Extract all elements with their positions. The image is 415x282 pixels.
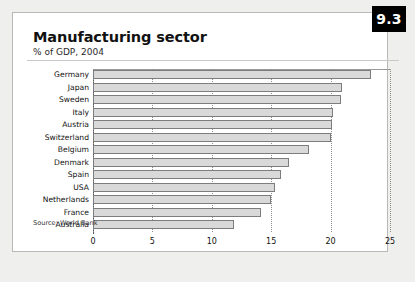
- bar: [93, 170, 281, 179]
- category-axis-labels: GermanyJapanSwedenItalyAustriaSwitzerlan…: [13, 69, 89, 232]
- bar: [93, 195, 271, 204]
- bar-row: [93, 219, 390, 232]
- bar-row: [93, 169, 390, 182]
- bar-row: [93, 194, 390, 207]
- title-divider: [27, 60, 399, 61]
- x-axis-tick-label: 15: [266, 237, 276, 246]
- category-label: Italy: [15, 107, 89, 120]
- bar: [93, 120, 332, 129]
- bar-row: [93, 182, 390, 195]
- bar: [93, 183, 275, 192]
- category-label: France: [15, 207, 89, 220]
- page-title: Manufacturing sector: [33, 29, 207, 45]
- plot-area: 0510152025: [93, 69, 390, 232]
- source-note: Source: World Bank: [33, 219, 98, 227]
- x-axis-tick-label: 5: [150, 237, 155, 246]
- bar: [93, 70, 371, 79]
- x-axis-tick-label: 10: [207, 237, 217, 246]
- category-label: Denmark: [15, 157, 89, 170]
- bar-row: [93, 94, 390, 107]
- bar-row: [93, 157, 390, 170]
- category-label: Spain: [15, 169, 89, 182]
- bar: [93, 95, 341, 104]
- bar: [93, 108, 333, 117]
- bar-row: [93, 107, 390, 120]
- category-label: Austria: [15, 119, 89, 132]
- bar-row: [93, 69, 390, 82]
- category-label: Netherlands: [15, 194, 89, 207]
- x-axis-tick-label: 25: [385, 237, 395, 246]
- status-badge: 9.3: [372, 6, 406, 32]
- category-label: Switzerland: [15, 132, 89, 145]
- gridline: [390, 69, 391, 232]
- chart-figure: Manufacturing sector % of GDP, 2004 Germ…: [0, 0, 415, 282]
- x-axis-tick-label: 0: [90, 237, 95, 246]
- bar-row: [93, 119, 390, 132]
- bar: [93, 133, 331, 142]
- bar-row: [93, 82, 390, 95]
- category-label: Sweden: [15, 94, 89, 107]
- bar-row: [93, 144, 390, 157]
- category-label: Belgium: [15, 144, 89, 157]
- bar: [93, 158, 289, 167]
- category-label: USA: [15, 182, 89, 195]
- bar: [93, 83, 342, 92]
- chart-panel: Manufacturing sector % of GDP, 2004 Germ…: [12, 12, 388, 252]
- bar: [93, 208, 261, 217]
- bar-row: [93, 132, 390, 145]
- bar: [93, 220, 234, 229]
- category-label: Japan: [15, 82, 89, 95]
- x-axis-tick-label: 20: [326, 237, 336, 246]
- bar: [93, 145, 309, 154]
- category-label: Germany: [15, 69, 89, 82]
- bar-row: [93, 207, 390, 220]
- chart-subtitle: % of GDP, 2004: [33, 47, 104, 57]
